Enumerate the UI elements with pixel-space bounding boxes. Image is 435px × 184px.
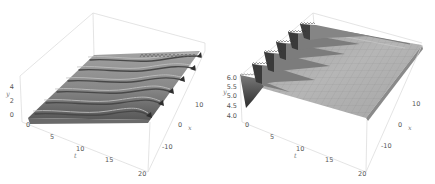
t-tick: 5 xyxy=(270,133,274,141)
z-tick: 4 xyxy=(10,83,14,91)
surface-plot-2: 6.0 5.5 5.0 4.5 4.0 y 0 5 10 15 20 t 10 … xyxy=(220,0,435,184)
surface-plot-1: 4 2 0 y 0 5 10 15 20 t 10 0 -10 x xyxy=(0,0,220,184)
x-axis-label: x xyxy=(188,124,192,132)
t-axis-1: 0 5 10 15 20 t xyxy=(26,121,146,178)
x-tick: -10 xyxy=(162,143,173,151)
z-axis-1: 4 2 0 y xyxy=(5,83,14,119)
z-axis-label: y xyxy=(222,88,227,96)
surface-2 xyxy=(240,23,423,122)
z-tick: 4.0 xyxy=(227,112,237,120)
z-tick: 2 xyxy=(10,97,14,105)
t-tick: 5 xyxy=(50,133,54,141)
z-tick: 4.5 xyxy=(227,102,237,110)
t-tick: 0 xyxy=(245,121,249,129)
z-tick: 5.5 xyxy=(227,83,237,91)
z-tick: 5.0 xyxy=(227,92,237,100)
z-axis-label: y xyxy=(5,90,10,98)
t-tick: 20 xyxy=(138,170,146,178)
surface-plot-1-canvas: 4 2 0 y 0 5 10 15 20 t 10 0 -10 x xyxy=(0,0,220,184)
x-tick: 10 xyxy=(412,100,420,108)
x-tick: 0 xyxy=(398,121,402,129)
z-axis-2: 6.0 5.5 5.0 4.5 4.0 y xyxy=(222,74,237,120)
t-axis-label: t xyxy=(294,152,297,160)
t-tick: 0 xyxy=(26,121,30,129)
t-tick: 15 xyxy=(325,156,333,164)
x-axis-1: 10 0 -10 x xyxy=(162,101,203,151)
t-axis-label: t xyxy=(74,152,77,160)
t-tick: 20 xyxy=(358,170,366,178)
t-tick: 15 xyxy=(105,156,113,164)
t-axis-2: 0 5 10 15 20 t xyxy=(245,121,366,178)
surface-plot-2-canvas: 6.0 5.5 5.0 4.5 4.0 y 0 5 10 15 20 t 10 … xyxy=(220,0,435,184)
x-tick: -10 xyxy=(381,142,392,150)
z-tick: 0 xyxy=(10,111,14,119)
z-tick: 6.0 xyxy=(227,74,237,82)
x-tick: 0 xyxy=(178,121,182,129)
t-tick: 10 xyxy=(76,145,84,153)
t-tick: 10 xyxy=(296,145,304,153)
x-axis-label: x xyxy=(408,124,412,132)
x-tick: 10 xyxy=(195,101,203,109)
